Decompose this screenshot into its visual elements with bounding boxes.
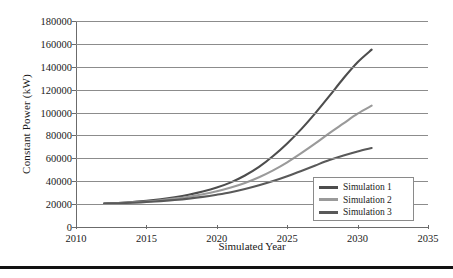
legend-label: Simulation 3	[343, 206, 392, 218]
x-tick-mark	[428, 225, 429, 229]
legend[interactable]: Simulation 1Simulation 2Simulation 3	[313, 177, 414, 221]
y-tick-label: 120000	[18, 84, 72, 95]
legend-item[interactable]: Simulation 1	[319, 181, 408, 194]
x-tick-mark	[358, 225, 359, 229]
legend-label: Simulation 1	[343, 181, 392, 193]
x-tick-mark	[76, 225, 77, 229]
y-tick-label: 100000	[18, 107, 72, 118]
y-tick-label: 20000	[18, 199, 72, 210]
gridline	[76, 90, 428, 91]
legend-color-swatch	[319, 198, 338, 201]
gridline	[76, 44, 428, 45]
gridline	[76, 135, 428, 136]
legend-item[interactable]: Simulation 3	[319, 206, 408, 219]
legend-color-swatch	[319, 186, 338, 189]
legend-label: Simulation 2	[343, 194, 392, 206]
bottom-divider	[0, 266, 453, 269]
legend-color-swatch	[319, 211, 338, 214]
gridline	[76, 113, 428, 114]
y-tick-label: 60000	[18, 153, 72, 164]
x-tick-mark	[146, 225, 147, 229]
legend-item[interactable]: Simulation 2	[319, 194, 408, 207]
y-tick-label: 140000	[18, 61, 72, 72]
gridline	[76, 158, 428, 159]
y-tick-label: 40000	[18, 176, 72, 187]
x-axis-label: Simulated Year	[76, 240, 428, 252]
y-tick-label: 160000	[18, 38, 72, 49]
gridline	[76, 67, 428, 68]
line-chart: Constant Power (kW) 02000040000600008000…	[0, 0, 453, 258]
y-tick-label: 180000	[18, 16, 72, 27]
gridline	[76, 21, 428, 22]
y-axis-tick-labels: 0200004000060000800001000001200001400001…	[14, 0, 72, 258]
x-tick-mark	[287, 225, 288, 229]
x-axis-line	[76, 227, 428, 228]
x-tick-mark	[217, 225, 218, 229]
y-tick-label: 80000	[18, 130, 72, 141]
figure: Constant Power (kW) 02000040000600008000…	[0, 0, 453, 278]
